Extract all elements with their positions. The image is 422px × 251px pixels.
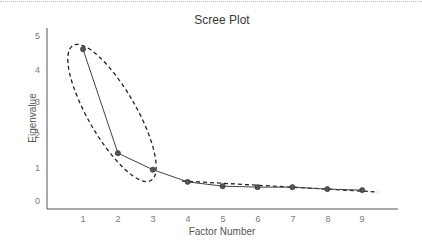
data-point-2 [115, 151, 120, 156]
data-point-7 [290, 185, 295, 190]
x-tick-8: 8 [325, 214, 330, 224]
x-tick-2: 2 [115, 214, 120, 224]
x-tick-5: 5 [220, 214, 225, 224]
y-tick-4: 4 [35, 65, 40, 75]
y-tick-5: 5 [35, 31, 40, 41]
x-axis-label: Factor Number [189, 226, 256, 237]
scree-plot: Scree Plot 0 1 2 3 4 5 1 2 3 4 5 6 7 8 9… [0, 0, 422, 251]
data-point-1 [80, 47, 85, 52]
x-tick-1: 1 [80, 214, 85, 224]
data-point-5 [220, 184, 225, 189]
chart-title: Scree Plot [194, 13, 250, 27]
data-point-4 [185, 179, 190, 184]
annotation-trend-line [182, 181, 378, 192]
x-tick-4: 4 [185, 214, 190, 224]
data-point-6 [255, 185, 260, 190]
x-tick-3: 3 [150, 214, 155, 224]
data-points [80, 47, 364, 193]
x-tick-9: 9 [359, 214, 364, 224]
data-point-3 [150, 167, 155, 172]
x-tick-7: 7 [290, 214, 295, 224]
x-tick-6: 6 [255, 214, 260, 224]
data-point-9 [360, 188, 365, 193]
data-point-8 [325, 187, 330, 192]
y-tick-0: 0 [35, 196, 40, 206]
y-tick-1: 1 [35, 163, 40, 173]
y-axis-label: Eigenvalue [27, 93, 38, 143]
x-tick-labels: 1 2 3 4 5 6 7 8 9 [80, 214, 364, 224]
